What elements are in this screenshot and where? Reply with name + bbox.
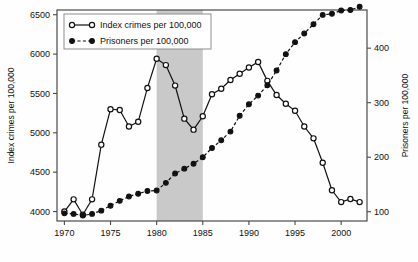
data-point-0	[302, 124, 307, 129]
data-point-1	[237, 113, 242, 118]
data-point-0	[274, 92, 279, 97]
data-point-1	[163, 180, 168, 185]
data-point-1	[210, 146, 215, 151]
dual-axis-line-chart: 1970197519801985199019952000400045005000…	[0, 0, 418, 262]
data-point-0	[329, 188, 334, 193]
data-point-0	[126, 124, 131, 129]
data-point-0	[163, 63, 168, 68]
legend-marker-1	[90, 39, 95, 44]
data-point-1	[136, 191, 141, 196]
data-point-1	[145, 189, 150, 194]
data-point-0	[200, 114, 205, 119]
data-point-1	[311, 22, 316, 27]
data-point-0	[108, 107, 113, 112]
data-point-1	[302, 31, 307, 36]
data-point-0	[209, 92, 214, 97]
y-tick-label-left: 6000	[30, 49, 50, 59]
data-point-1	[90, 212, 95, 217]
legend-label-1: Prisoners per 100,000	[100, 36, 189, 46]
data-point-1	[274, 68, 279, 73]
data-point-1	[228, 129, 233, 134]
legend-marker-1	[70, 39, 75, 44]
data-point-1	[256, 93, 261, 98]
chart-figure: 1970197519801985199019952000400045005000…	[0, 0, 418, 262]
legend-marker-0	[69, 22, 74, 27]
x-tick-label: 1970	[54, 228, 74, 238]
x-tick-label: 1990	[239, 228, 259, 238]
x-tick-label: 1975	[100, 228, 120, 238]
y-tick-label-right: 300	[374, 98, 389, 108]
data-point-1	[99, 208, 104, 213]
data-point-1	[283, 52, 288, 57]
data-point-1	[117, 198, 122, 203]
data-point-0	[283, 101, 288, 106]
x-tick-label: 1980	[147, 228, 167, 238]
y-tick-label-right: 100	[374, 207, 389, 217]
x-tick-label: 2000	[331, 228, 351, 238]
data-point-1	[173, 171, 178, 176]
y-tick-label-left: 4000	[30, 207, 50, 217]
data-point-1	[320, 13, 325, 18]
data-point-0	[246, 65, 251, 70]
data-point-1	[247, 102, 252, 107]
data-point-0	[357, 200, 362, 205]
data-point-0	[339, 200, 344, 205]
legend-marker-0	[89, 22, 94, 27]
data-point-0	[182, 116, 187, 121]
data-point-1	[357, 4, 362, 9]
data-point-0	[173, 83, 178, 88]
data-point-1	[219, 138, 224, 143]
data-point-0	[228, 77, 233, 82]
data-point-0	[117, 107, 122, 112]
x-tick-label: 1995	[285, 228, 305, 238]
data-point-1	[191, 161, 196, 166]
y-tick-label-left: 4500	[30, 167, 50, 177]
data-point-0	[292, 108, 297, 113]
y-tick-label-left: 5000	[30, 128, 50, 138]
data-point-1	[108, 203, 113, 208]
data-point-1	[62, 211, 67, 216]
data-point-0	[99, 142, 104, 147]
data-point-0	[311, 136, 316, 141]
y-axis-title-right: Prisoners per 100,000	[400, 73, 410, 157]
data-point-1	[339, 8, 344, 13]
data-point-1	[200, 155, 205, 160]
data-point-1	[293, 40, 298, 45]
data-point-0	[191, 127, 196, 132]
x-tick-label: 1985	[193, 228, 213, 238]
data-point-0	[219, 86, 224, 91]
data-point-1	[71, 212, 76, 217]
y-axis-title-left: Index crimes per 100,000	[6, 67, 16, 163]
data-point-0	[348, 196, 353, 201]
data-point-0	[256, 59, 261, 64]
data-point-0	[71, 197, 76, 202]
data-point-0	[154, 56, 159, 61]
legend-label-0: Index crimes per 100,000	[100, 20, 202, 30]
data-point-1	[330, 11, 335, 16]
y-tick-label-right: 400	[374, 43, 389, 53]
data-point-0	[89, 197, 94, 202]
data-point-1	[80, 213, 85, 218]
data-point-0	[320, 160, 325, 165]
data-point-0	[136, 119, 141, 124]
data-point-1	[265, 83, 270, 88]
data-point-1	[154, 188, 159, 193]
data-point-1	[127, 194, 132, 199]
data-point-0	[237, 71, 242, 76]
data-point-1	[182, 166, 187, 171]
y-tick-label-left: 5500	[30, 89, 50, 99]
y-tick-label-right: 200	[374, 152, 389, 162]
data-point-1	[348, 8, 353, 13]
y-tick-label-left: 6500	[30, 10, 50, 20]
data-point-0	[145, 85, 150, 90]
